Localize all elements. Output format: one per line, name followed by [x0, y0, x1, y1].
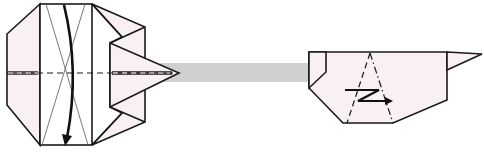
origami-diagram [0, 0, 484, 162]
spike-flap [447, 52, 482, 70]
main-body [309, 52, 447, 123]
figure-after [309, 52, 482, 123]
center-panel [40, 4, 92, 145]
transition-band [160, 63, 312, 82]
figure-before [7, 4, 179, 146]
